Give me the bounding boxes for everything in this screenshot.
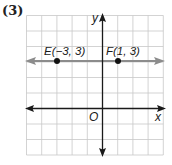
y-axis: [99, 13, 106, 157]
grid: [27, 16, 164, 156]
line-ef: [25, 57, 165, 65]
point-e-label: E(−3, 3): [44, 45, 85, 57]
point-f-label: F(1, 3): [106, 45, 140, 57]
x-axis-label: x: [154, 110, 162, 124]
point-e: [54, 58, 60, 64]
point-f: [115, 58, 121, 64]
y-axis-label: y: [91, 11, 99, 25]
coordinate-plane: y x O E(−3, 3) F(1, 3): [0, 0, 172, 165]
origin-label: O: [89, 110, 98, 124]
